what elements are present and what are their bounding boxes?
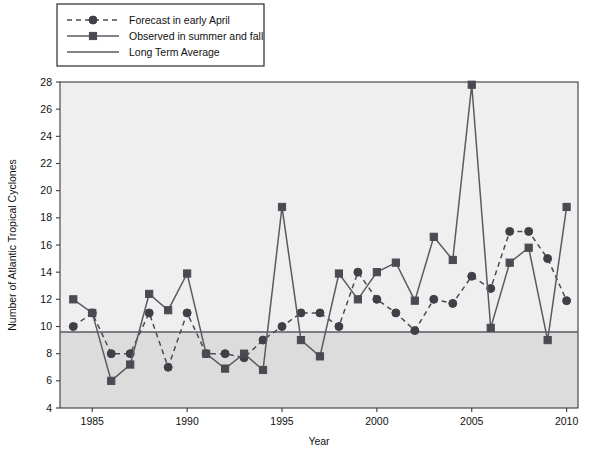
data-point-forecast [107,350,115,358]
data-point-observed [278,203,285,210]
data-point-observed [70,296,77,303]
data-point-observed [354,296,361,303]
data-point-observed [203,350,210,357]
data-point-observed [411,297,418,304]
y-tick-label: 4 [46,402,52,414]
legend-marker-circle [89,16,97,24]
y-tick-label: 22 [40,157,52,169]
data-point-forecast [145,309,153,317]
data-point-forecast [392,309,400,317]
y-tick-label: 14 [40,266,52,278]
data-point-forecast [563,297,571,305]
data-point-forecast [373,295,381,303]
data-point-observed [544,336,551,343]
data-point-observed [297,336,304,343]
x-tick-label: 2010 [555,415,579,427]
y-tick-label: 16 [40,239,52,251]
legend-marker-square [89,32,96,39]
data-point-forecast [449,299,457,307]
data-point-forecast [278,323,286,331]
data-point-observed [487,324,494,331]
data-point-observed [108,377,115,384]
y-tick-label: 8 [46,347,52,359]
data-point-observed [449,256,456,263]
data-point-observed [335,270,342,277]
y-tick-label: 26 [40,103,52,115]
x-tick-label: 2005 [460,415,484,427]
x-tick-label: 1990 [175,415,199,427]
y-tick-label: 20 [40,184,52,196]
data-point-forecast [544,255,552,263]
data-point-forecast [506,227,514,235]
chart-container: 4681012141618202224262819851990199520002… [0,0,603,466]
data-point-observed [525,244,532,251]
x-tick-label: 1985 [81,415,105,427]
data-point-observed [506,259,513,266]
data-point-forecast [164,363,172,371]
data-point-forecast [316,309,324,317]
y-tick-label: 24 [40,130,52,142]
data-point-observed [373,269,380,276]
data-point-observed [89,309,96,316]
data-point-forecast [354,268,362,276]
data-point-forecast [183,309,191,317]
data-point-forecast [430,295,438,303]
data-point-observed [430,233,437,240]
data-point-observed [563,203,570,210]
data-point-forecast [335,323,343,331]
y-axis-title: Number of Atlantic Tropical Cyclones [6,159,18,331]
y-tick-label: 18 [40,211,52,223]
data-point-observed [392,259,399,266]
data-point-observed [316,353,323,360]
legend-label-observed: Observed in summer and fall [129,30,263,42]
y-tick-label: 10 [40,320,52,332]
data-point-observed [184,270,191,277]
data-point-observed [221,365,228,372]
data-point-observed [127,361,134,368]
legend-label-average: Long Term Average [129,46,220,58]
data-point-observed [165,307,172,314]
y-tick-label: 12 [40,293,52,305]
cyclone-line-chart: 4681012141618202224262819851990199520002… [0,0,603,466]
legend-label-forecast: Forecast in early April [129,14,230,26]
data-point-observed [259,366,266,373]
data-point-observed [146,290,153,297]
data-point-forecast [221,350,229,358]
data-point-forecast [468,272,476,280]
x-tick-label: 2000 [365,415,389,427]
data-point-forecast [69,323,77,331]
y-tick-label: 28 [40,76,52,88]
x-axis-title: Year [308,435,330,447]
plot-background-lower [60,332,578,408]
data-point-observed [468,81,475,88]
data-point-observed [240,350,247,357]
y-tick-label: 6 [46,374,52,386]
data-point-forecast [525,227,533,235]
x-tick-label: 1995 [270,415,294,427]
data-point-forecast [411,327,419,335]
